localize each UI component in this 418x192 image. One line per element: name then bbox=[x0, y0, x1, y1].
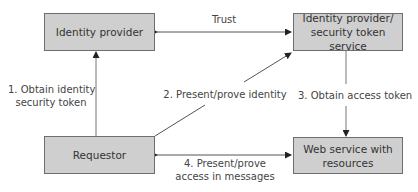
identity-provider-label: Identity provider bbox=[56, 25, 143, 39]
step4-label-line1: 4. Present/prove bbox=[170, 157, 280, 170]
web-service-label-line1: Web service with bbox=[303, 142, 392, 156]
step3-label: 3. Obtain access token bbox=[298, 89, 396, 102]
sts-label-line2: security token service bbox=[294, 25, 402, 53]
step2-label: 2. Present/prove identity bbox=[160, 88, 290, 101]
step4-label-line2: access in messages bbox=[170, 170, 280, 183]
web-service-label-line2: resources bbox=[323, 156, 374, 170]
step4-label: 4. Present/prove access in messages bbox=[170, 157, 280, 183]
requestor-label: Requestor bbox=[73, 148, 126, 162]
step1-label-line2: security token bbox=[8, 96, 94, 109]
step2-arrow-upper bbox=[244, 53, 291, 82]
identity-provider-node: Identity provider bbox=[44, 13, 155, 51]
sts-node: Identity provider/ security token servic… bbox=[293, 13, 403, 51]
requestor-node: Requestor bbox=[44, 136, 155, 174]
trust-label: Trust bbox=[204, 13, 244, 26]
step1-label: 1. Obtain identity security token bbox=[8, 83, 94, 109]
step2-arrow-lower bbox=[155, 105, 205, 136]
web-service-node: Web service with resources bbox=[293, 137, 403, 174]
step1-label-line1: 1. Obtain identity bbox=[8, 83, 94, 96]
sts-label-line1: Identity provider/ bbox=[303, 11, 394, 25]
